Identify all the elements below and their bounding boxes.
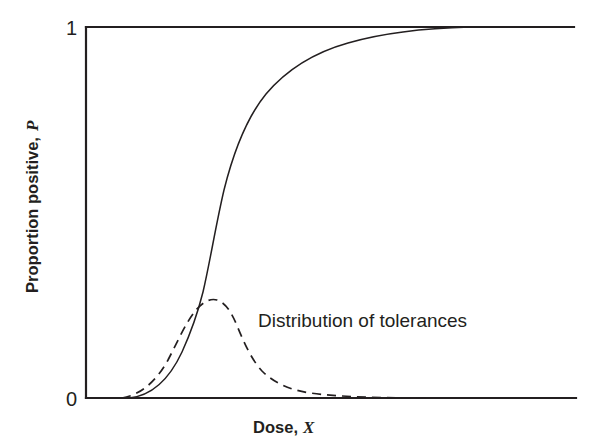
plot-canvas: 1 0 Proportion positive, P Dose, X Distr…: [0, 0, 600, 446]
x-axis-title: Dose, X: [253, 418, 315, 437]
y-axis-title-variable: P: [23, 120, 42, 132]
y-axis-title-text: Proportion positive,: [23, 137, 41, 293]
tolerance-distribution-annotation: Distribution of tolerances: [258, 310, 467, 331]
x-axis-title-variable: X: [302, 418, 315, 437]
y-tick-label-0: 0: [66, 388, 77, 410]
cumulative-response-curve: [129, 27, 572, 398]
x-axis-title-text: Dose,: [253, 418, 298, 436]
chart-figure: 1 0 Proportion positive, P Dose, X Distr…: [0, 0, 600, 446]
y-axis-title: Proportion positive, P: [23, 120, 42, 293]
y-tick-label-1: 1: [66, 17, 77, 39]
